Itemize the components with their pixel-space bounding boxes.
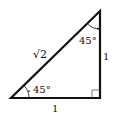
- top-angle-label: 45°: [79, 35, 97, 46]
- triangle-outline: [11, 11, 100, 98]
- vertical-leg-label: 1: [103, 51, 109, 62]
- hypotenuse-label: √2: [33, 48, 47, 61]
- right-angle-marker: [92, 90, 100, 98]
- bottom-angle-arc: [24, 85, 29, 98]
- horizontal-leg-label: 1: [52, 103, 58, 114]
- bottom-angle-arrow-icon: [28, 89, 30, 92]
- triangle-diagram: 45° 1 √2 45° 1: [0, 0, 116, 121]
- triangle-svg: 45° 1 √2 45° 1: [0, 0, 116, 121]
- bottom-angle-label: 45°: [33, 84, 51, 95]
